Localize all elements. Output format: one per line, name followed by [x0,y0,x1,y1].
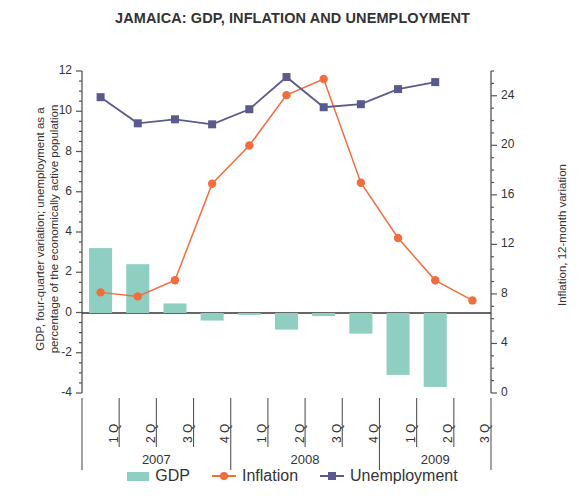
chart-container: JAMAICA: GDP, INFLATION AND UNEMPLOYMENT… [0,0,585,497]
gdp-bar [424,313,447,387]
unemployment-line [101,77,436,124]
unemployment-swatch-icon [320,471,344,481]
chart-legend: GDP Inflation Unemployment [0,468,585,484]
inflation-marker [245,141,253,149]
gdp-bar [126,264,149,313]
unemployment-marker [208,120,216,128]
legend-item-unemployment[interactable]: Unemployment [320,468,458,484]
gdp-bar [238,313,261,315]
gdp-bar [349,313,372,334]
plot-area [0,0,585,497]
gdp-bar [275,313,298,330]
inflation-marker [394,234,402,242]
gdp-bar [387,313,410,375]
inflation-marker [96,288,104,296]
gdp-bar [201,313,224,321]
gdp-bar [89,248,112,313]
inflation-marker [208,180,216,188]
inflation-marker [468,296,476,304]
unemployment-marker [431,78,439,86]
unemployment-marker [320,103,328,111]
inflation-marker [171,276,179,284]
inflation-marker [357,178,365,186]
gdp-bar [312,313,335,316]
unemployment-marker [97,93,105,101]
gdp-swatch-icon [127,472,149,481]
gdp-bar [163,303,186,313]
inflation-marker [282,91,290,99]
legend-label-inflation: Inflation [242,468,298,484]
unemployment-marker [283,73,291,81]
unemployment-marker [394,85,402,93]
legend-label-gdp: GDP [155,468,190,484]
legend-item-gdp[interactable]: GDP [127,468,190,484]
unemployment-marker [171,115,179,123]
inflation-marker [134,292,142,300]
inflation-line [101,79,473,300]
inflation-swatch-icon [212,471,236,481]
legend-label-unemployment: Unemployment [350,468,458,484]
inflation-marker [431,276,439,284]
inflation-marker [319,75,327,83]
unemployment-marker [245,105,253,113]
unemployment-marker [357,100,365,108]
unemployment-marker [134,119,142,127]
legend-item-inflation[interactable]: Inflation [212,468,298,484]
